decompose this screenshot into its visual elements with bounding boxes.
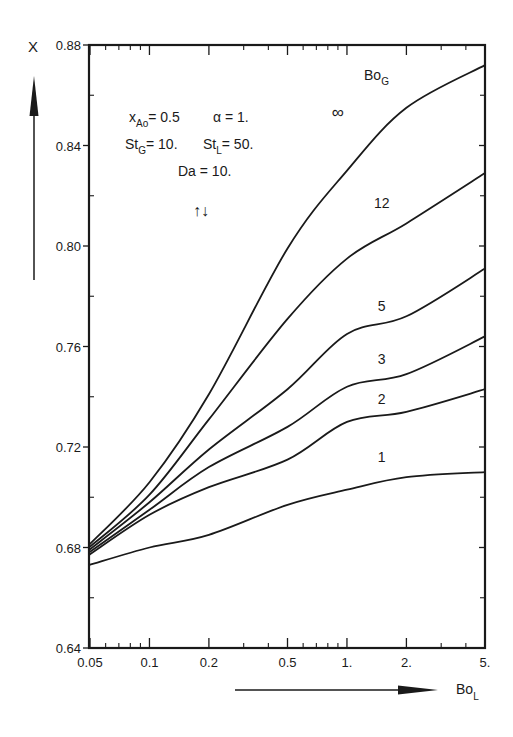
param-xao: xAo= 0.5 [129, 109, 180, 129]
curve-bog-1 [89, 173, 485, 547]
y-tick-label: 0.88 [56, 38, 81, 53]
curve-label: 5 [378, 298, 386, 314]
curve-label: ∞ [332, 103, 344, 122]
x-tick-label: 0.2 [200, 655, 218, 670]
y-axis-arrow [30, 76, 39, 280]
x-axis-arrow [235, 686, 438, 695]
y-tick-label: 0.64 [56, 641, 81, 656]
chart: 0.640.680.720.760.800.840.88 0.050.10.20… [0, 0, 513, 737]
param-da: Da = 10. [178, 163, 231, 179]
curve-bog-4 [89, 389, 485, 555]
y-tick-label: 0.76 [56, 340, 81, 355]
y-tick-label: 0.72 [56, 440, 81, 455]
param-alpha: α = 1. [213, 109, 249, 125]
x-tick-label: 0.05 [77, 655, 102, 670]
y-tick-label: 0.84 [56, 139, 81, 154]
parameters-block: xAo= 0.5 α = 1. StG= 10. StL= 50. Da = 1… [125, 109, 253, 219]
x-axis-ticks: 0.050.10.20.51.2.5. [77, 45, 490, 670]
countercurrent-arrows-icon: ↑↓ [193, 202, 209, 219]
x-tick-label: 2. [401, 655, 412, 670]
y-tick-label: 0.68 [56, 541, 81, 556]
y-tick-label: 0.80 [56, 239, 81, 254]
legend-title: BoG [364, 67, 389, 87]
x-tick-label: 5. [480, 655, 491, 670]
curve-label: 2 [378, 391, 386, 407]
param-stg: StG= 10. [125, 136, 178, 156]
curve-label: 1 [378, 449, 386, 465]
curve-bog-3 [89, 336, 485, 552]
x-axis-label: BoL [456, 681, 479, 702]
y-axis-ticks: 0.640.680.720.760.800.840.88 [56, 38, 485, 656]
x-tick-label: 1. [342, 655, 353, 670]
curve-labels: ∞125321 [332, 103, 390, 465]
curve-label: 3 [378, 351, 386, 367]
y-axis-label: X [28, 38, 38, 55]
x-tick-label: 0.5 [278, 655, 296, 670]
curve-bog-2 [89, 269, 485, 550]
curve-label: 12 [374, 195, 390, 211]
x-tick-label: 0.1 [140, 655, 158, 670]
curve-bog-5 [89, 472, 485, 565]
param-stl: StL= 50. [203, 136, 253, 156]
